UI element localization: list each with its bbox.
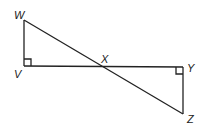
geometry-diagram: W V X Y Z <box>0 0 200 133</box>
right-angle-mark-v <box>24 59 31 66</box>
label-y: Y <box>187 62 195 74</box>
label-z: Z <box>186 113 195 125</box>
label-x: X <box>100 53 109 65</box>
label-v: V <box>14 68 23 80</box>
label-w: W <box>14 9 26 21</box>
right-angle-mark-y <box>176 67 183 74</box>
